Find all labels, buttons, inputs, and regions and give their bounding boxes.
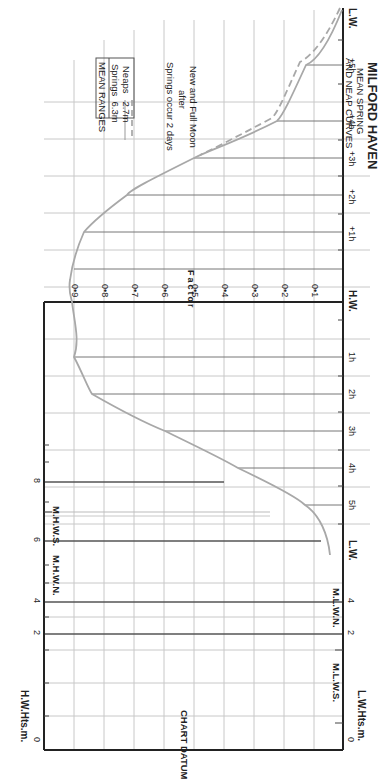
factor-0-6: 0•6 [160,284,170,297]
height-8: 8 [32,478,42,483]
springs-range: Springs 6.3m [110,64,121,123]
lw-heights-axis-label: L.W.Hts.m. [356,690,367,741]
factor-0-4: 0•4 [220,284,230,297]
hw-heights-axis-label: H.W.Hts.m. [19,690,30,742]
factor-0-1: 0•1 [310,284,320,297]
mhws-label: M.H.W.S. [51,506,62,546]
time-plus4: +4h [347,114,357,129]
time-minus3: 3h [347,426,357,436]
lw-top-label: L.W. [347,8,358,29]
mlwn-label: M.L.W.N. [331,588,342,628]
factor-0-7: 0•7 [130,284,140,297]
time-plus3: +3h [347,151,357,166]
time-minus4: 4h [347,463,357,473]
mhwn-label: M.H.W.N. [51,555,62,596]
neaps-range: Neaps 2.7m [121,66,132,123]
factor-0-2: 0•2 [280,284,290,297]
time-minus2: 2h [347,389,357,399]
height-0: 0 [32,737,42,742]
factor-0-5: 0•5 [190,284,200,297]
mlws-label: M.L.W.S. [331,663,342,702]
note-line1: Springs occur 2 days [165,62,176,151]
lw-height-2: 2 [346,630,356,635]
factor-0-3: 0•3 [250,284,260,297]
lw-bottom-label: L.W. [347,540,358,561]
chart-datum-label: CHART DATUM [179,710,190,779]
factor-0-9: 0•9 [70,284,80,297]
hw-label: H.W. [347,290,358,312]
time-minus5: 5h [347,500,357,510]
height-6: 6 [32,537,42,542]
note-line2: after [177,90,188,109]
time-grid [44,102,370,716]
factor-0-8: 0•8 [100,284,110,297]
neap-curve [200,8,340,155]
time-minus1: 1h [347,352,357,362]
time-plus5: +5h [347,58,357,73]
note-line3: New and Full Moon [188,66,199,148]
time-plus2: +2h [347,189,357,204]
lw-height-0: 0 [346,737,356,742]
mean-ranges-header: MEAN RANGES [97,62,108,132]
height-2: 2 [32,630,42,635]
chart-title: MILFORD HAVEN [365,62,380,169]
lw-height-4: 4 [346,598,356,603]
hour-lines [74,65,343,505]
height-4: 4 [32,598,42,603]
time-plus1: +1h [347,226,357,241]
